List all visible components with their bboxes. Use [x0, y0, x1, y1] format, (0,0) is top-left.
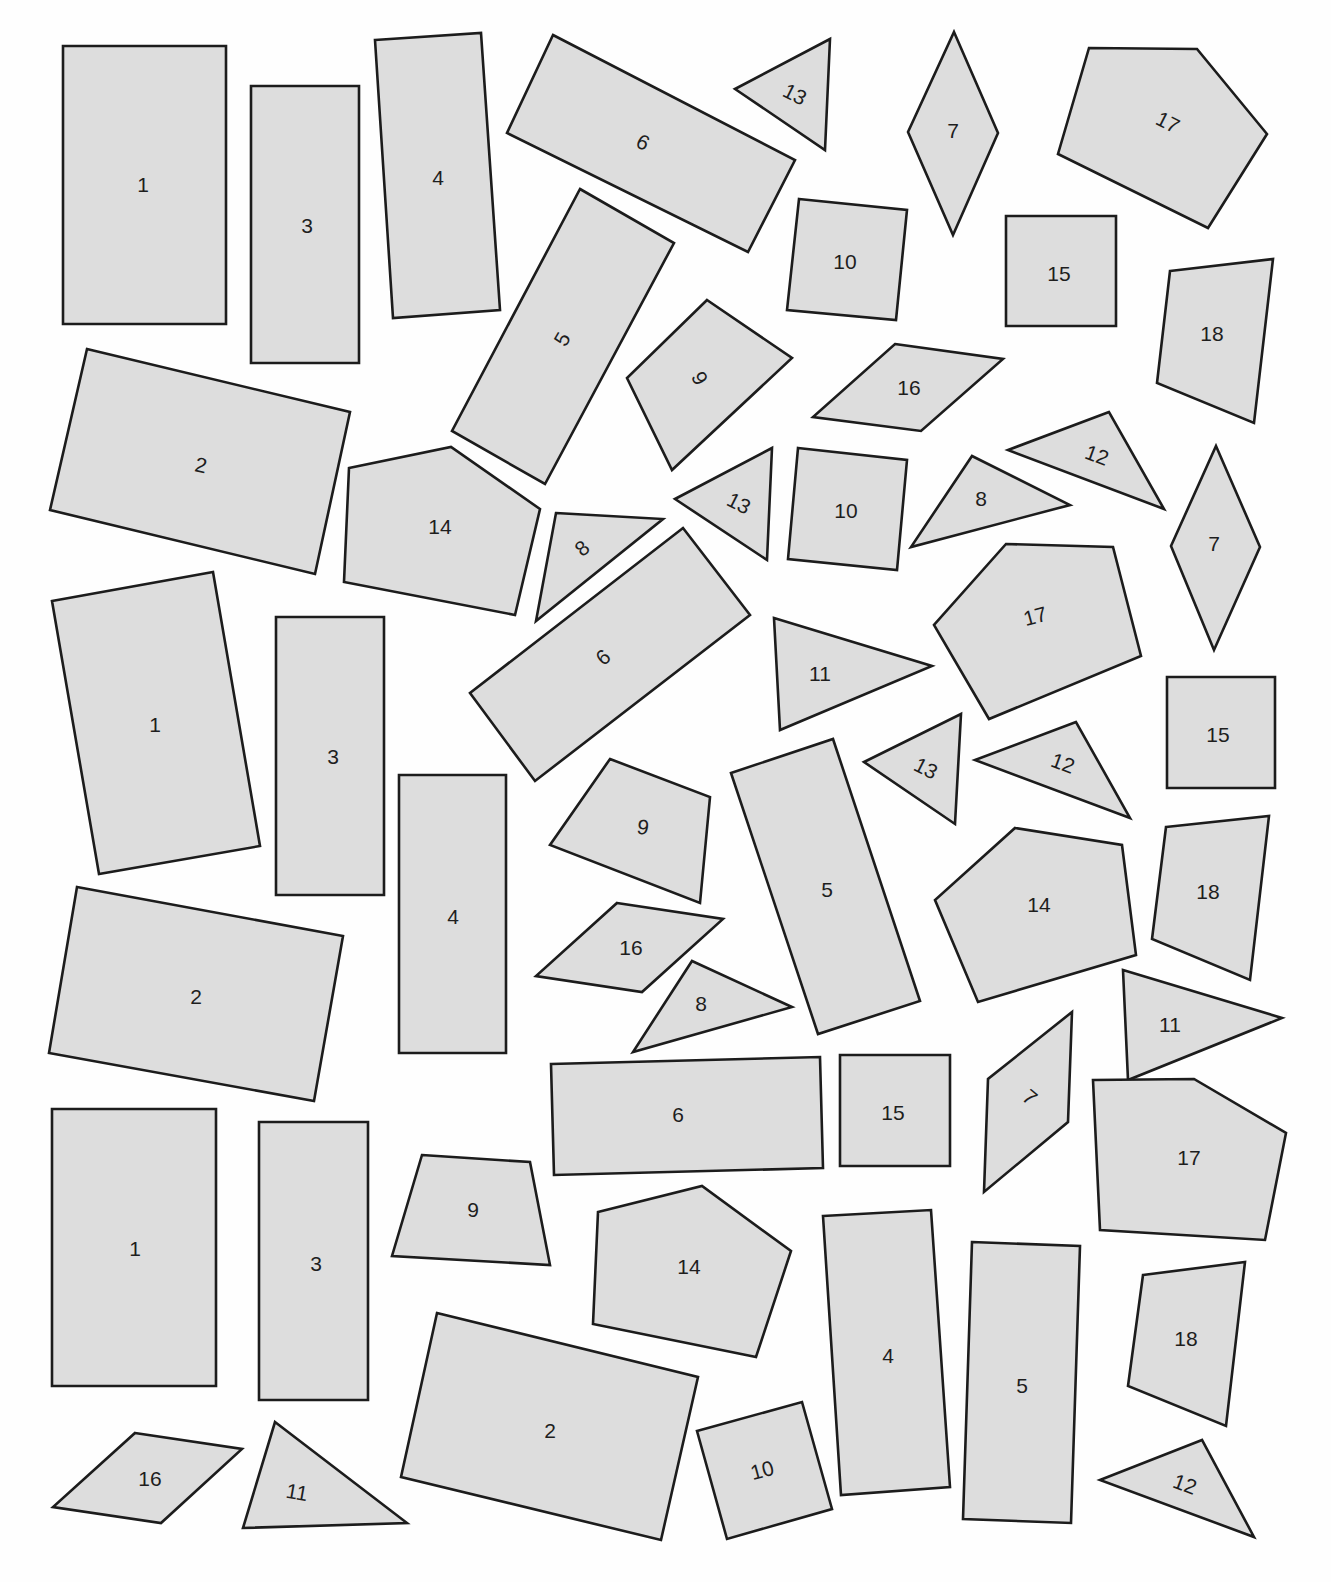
shape-number-label: 3 — [301, 214, 313, 237]
shape-2: 2 — [49, 887, 343, 1101]
shape-11: 11 — [774, 618, 932, 730]
shape-number-label: 16 — [138, 1467, 161, 1490]
shape-number-label: 16 — [619, 936, 642, 959]
shape-14: 14 — [344, 447, 540, 615]
shape-5: 5 — [963, 1242, 1080, 1523]
shape-3: 3 — [251, 86, 359, 363]
shape-4: 4 — [375, 33, 500, 318]
worksheet-page: 1346137171015185291614813108127136111715… — [0, 0, 1331, 1582]
shape-9: 9 — [550, 759, 710, 903]
shape-4: 4 — [399, 775, 506, 1053]
shape-outline — [550, 759, 710, 903]
shape-number-label: 7 — [1208, 532, 1220, 555]
shape-number-label: 5 — [1016, 1374, 1028, 1397]
shape-outline — [507, 35, 795, 252]
shape-6: 6 — [551, 1057, 823, 1175]
shape-number-label: 1 — [129, 1237, 141, 1260]
shape-6: 6 — [507, 35, 795, 252]
shape-14: 14 — [593, 1186, 791, 1357]
shape-3: 3 — [276, 617, 384, 895]
shape-number-label: 1 — [149, 713, 161, 736]
shape-15: 15 — [840, 1055, 950, 1166]
shape-outline — [243, 1422, 407, 1528]
shape-number-label: 14 — [1027, 893, 1051, 916]
shape-outline — [551, 1057, 823, 1175]
shape-1: 1 — [63, 46, 226, 324]
shape-number-label: 6 — [672, 1103, 684, 1126]
shape-number-label: 9 — [467, 1198, 479, 1221]
shape-12: 12 — [1100, 1440, 1254, 1537]
shape-16: 16 — [813, 344, 1003, 431]
shape-13: 13 — [864, 714, 961, 824]
shape-9: 9 — [392, 1155, 550, 1265]
shape-5: 5 — [731, 739, 920, 1034]
shape-number-label: 18 — [1200, 322, 1223, 345]
shape-number-label: 18 — [1196, 880, 1219, 903]
shape-number-label: 14 — [677, 1255, 701, 1278]
shape-number-label: 7 — [947, 119, 959, 142]
shape-10: 10 — [787, 199, 907, 320]
shape-15: 15 — [1167, 677, 1275, 788]
shape-8: 8 — [911, 456, 1070, 547]
shape-7: 7 — [1171, 446, 1260, 650]
shape-18: 18 — [1128, 1262, 1245, 1426]
shape-1: 1 — [52, 1109, 216, 1386]
shape-17: 17 — [934, 544, 1141, 719]
shape-13: 13 — [735, 39, 830, 150]
shape-number-label: 18 — [1174, 1327, 1197, 1350]
shape-2: 2 — [401, 1313, 698, 1540]
shape-3: 3 — [259, 1122, 368, 1400]
shape-14: 14 — [935, 828, 1136, 1002]
shape-17: 17 — [1093, 1079, 1286, 1240]
shape-number-label: 15 — [1206, 723, 1229, 746]
shape-number-label: 16 — [897, 376, 920, 399]
shapes-canvas: 1346137171015185291614813108127136111715… — [0, 0, 1331, 1582]
shape-number-label: 3 — [327, 745, 339, 768]
shape-number-label: 11 — [809, 662, 831, 685]
shape-outline — [1123, 970, 1282, 1080]
shape-4: 4 — [823, 1210, 950, 1495]
shape-2: 2 — [50, 349, 350, 574]
shape-10: 10 — [788, 448, 907, 570]
shape-number-label: 5 — [821, 878, 833, 901]
shape-number-label: 11 — [1159, 1013, 1181, 1036]
shape-outline — [934, 544, 1141, 719]
shape-9: 9 — [627, 300, 792, 470]
shape-outline — [1058, 48, 1267, 228]
shape-outline — [911, 456, 1070, 547]
shape-1: 1 — [52, 572, 260, 874]
shape-number-label: 10 — [833, 250, 856, 273]
shape-number-label: 8 — [975, 487, 987, 510]
shape-11: 11 — [1123, 970, 1282, 1080]
shape-number-label: 10 — [834, 499, 857, 522]
shape-number-label: 17 — [1177, 1146, 1200, 1169]
shape-18: 18 — [1152, 816, 1269, 980]
shape-number-label: 2 — [190, 985, 202, 1008]
shape-number-label: 1 — [137, 173, 149, 196]
shape-number-label: 4 — [882, 1344, 894, 1367]
shape-15: 15 — [1006, 216, 1116, 326]
shape-10: 10 — [697, 1402, 832, 1539]
shape-number-label: 4 — [432, 166, 444, 189]
shape-outline — [627, 300, 792, 470]
shape-number-label: 15 — [881, 1101, 904, 1124]
shape-7: 7 — [984, 1012, 1072, 1192]
shape-number-label: 4 — [447, 905, 459, 928]
shape-17: 17 — [1058, 48, 1267, 228]
shape-7: 7 — [908, 32, 998, 235]
shape-18: 18 — [1157, 259, 1273, 423]
shape-number-label: 8 — [695, 992, 707, 1015]
shape-number-label: 11 — [284, 1479, 309, 1505]
shape-number-label: 15 — [1047, 262, 1070, 285]
shape-number-label: 2 — [544, 1419, 556, 1442]
shape-outline — [774, 618, 932, 730]
shape-number-label: 3 — [310, 1252, 322, 1275]
shape-11: 11 — [243, 1422, 407, 1528]
shape-16: 16 — [53, 1433, 242, 1523]
shape-number-label: 14 — [428, 515, 452, 538]
shape-12: 12 — [975, 722, 1130, 818]
